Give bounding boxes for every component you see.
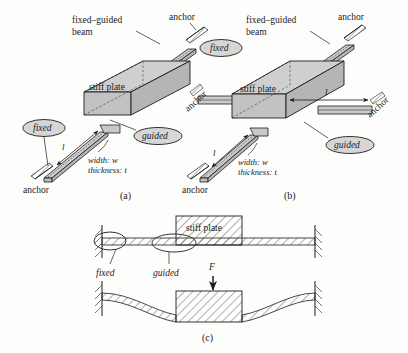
panel-a-beam-label-line1: fixed–guided xyxy=(72,15,122,25)
beam-mechanics-figure: anchor stiff plate anchor xyxy=(0,0,408,353)
panel-c: stiff plate fixed guided xyxy=(94,216,322,344)
panel-a-badge-fixed-label: fixed xyxy=(33,123,52,133)
panel-b-dim-length-left: l xyxy=(213,148,216,158)
panel-b-dim-thickness: thickness: t xyxy=(238,167,278,177)
panel-b-plate-label: stiff plate xyxy=(240,84,276,94)
panel-a-anchor-top-symbol xyxy=(186,27,208,43)
panel-c-caption: (c) xyxy=(202,332,213,344)
panel-b-beam-label-line1: fixed–guided xyxy=(246,15,296,25)
panel-a: anchor stiff plate anchor xyxy=(23,12,208,202)
panel-a-anchor-top-label: anchor xyxy=(169,12,196,22)
panel-b-badge-guided-label: guided xyxy=(334,140,360,150)
panel-b-anchor-bottom-label: anchor xyxy=(182,185,209,195)
panel-c-deformed: F xyxy=(95,262,322,322)
panel-c-label-guided: guided xyxy=(153,268,179,278)
panel-a-plate-label: stiff plate xyxy=(89,82,125,92)
panel-c-deformed-beam-right xyxy=(242,293,315,322)
panel-a-stiff-plate: stiff plate xyxy=(84,61,190,115)
panel-a-badge-fixed: fixed xyxy=(23,120,65,137)
panel-a-dim-width: width: w xyxy=(88,155,118,165)
panel-a-dim-thickness: thickness: t xyxy=(88,165,128,175)
panel-c-plate-label: stiff plate xyxy=(186,223,222,233)
panel-b-dim-width: width: w xyxy=(238,157,268,167)
panel-b-beam-label-line2: beam xyxy=(246,27,267,37)
panel-b-caption: (b) xyxy=(284,190,296,202)
panel-c-deformed-beam-left xyxy=(102,293,176,322)
panel-b-badge-guided: guided xyxy=(326,137,374,154)
panel-a-caption: (a) xyxy=(120,190,131,202)
panel-a-dim-length: l xyxy=(62,142,65,152)
panel-b: anchor anchor anchor stiff plate xyxy=(182,12,391,202)
panel-b-right-beam xyxy=(318,106,372,114)
panel-a-badge-guided: guided xyxy=(134,128,182,145)
panel-c-force-label: F xyxy=(208,262,215,272)
panel-a-anchor-bottom-label: anchor xyxy=(23,185,50,195)
figure-container: anchor stiff plate anchor xyxy=(0,0,408,353)
panel-a-beam-label-line2: beam xyxy=(72,27,93,37)
panel-c-deformed-plate xyxy=(176,291,242,322)
panel-c-label-fixed: fixed xyxy=(96,268,115,278)
panel-c-undeformed: stiff plate fixed guided xyxy=(94,216,322,278)
panel-a-badge-guided-label: guided xyxy=(142,131,168,141)
panel-b-anchor-top-symbol xyxy=(344,25,366,41)
panel-b-badge-fixed: fixed xyxy=(200,40,242,57)
panel-b-anchor-top-label: anchor xyxy=(338,12,365,22)
panel-b-badge-fixed-label: fixed xyxy=(210,43,229,53)
